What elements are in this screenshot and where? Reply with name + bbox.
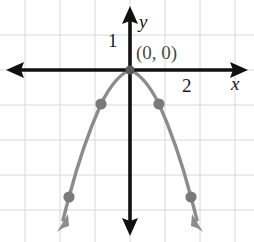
curve-point: [95, 98, 106, 109]
grid-lines: [0, 0, 254, 242]
origin-point: [125, 65, 134, 74]
origin-point-label: (0, 0): [136, 42, 177, 64]
parabola-graph-figure: y x 1 2 (0, 0): [0, 0, 254, 242]
x-tick-label-2: 2: [182, 75, 192, 96]
y-axis: [122, 6, 138, 236]
curve-point: [185, 191, 196, 202]
y-tick-label-1: 1: [108, 30, 118, 51]
y-axis-label: y: [137, 11, 148, 32]
curve-point: [63, 191, 74, 202]
x-axis-label: x: [230, 73, 240, 94]
graph-canvas: y x 1 2 (0, 0): [0, 0, 254, 242]
curve-point: [153, 98, 164, 109]
